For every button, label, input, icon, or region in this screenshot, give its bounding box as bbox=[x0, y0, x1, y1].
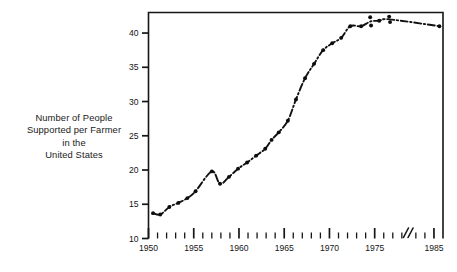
data-point bbox=[339, 36, 343, 40]
break-slash-2 bbox=[408, 228, 413, 238]
x-tick-label-1970: 1970 bbox=[320, 243, 339, 253]
plot-frame bbox=[149, 13, 444, 239]
y-tick-label-35: 35 bbox=[129, 62, 139, 72]
break-slash-1 bbox=[403, 228, 408, 238]
data-point bbox=[176, 201, 180, 205]
data-point bbox=[321, 48, 325, 52]
data-point bbox=[294, 98, 298, 102]
data-point bbox=[236, 167, 240, 171]
chart-figure: Number of People Supported per Farmer in… bbox=[0, 0, 457, 272]
data-point bbox=[303, 76, 307, 80]
data-point bbox=[369, 24, 373, 28]
data-point bbox=[245, 161, 249, 165]
data-point bbox=[368, 15, 372, 19]
y-tick-label-40: 40 bbox=[129, 28, 139, 38]
x-axis-break-icon bbox=[403, 228, 413, 238]
y-tick-label-20: 20 bbox=[129, 165, 139, 175]
data-points bbox=[151, 15, 441, 217]
x-tick-label-1985: 1985 bbox=[424, 243, 443, 253]
data-point bbox=[348, 24, 352, 28]
data-point bbox=[210, 169, 214, 173]
data-point bbox=[185, 196, 189, 200]
data-point bbox=[227, 175, 231, 179]
data-point bbox=[254, 154, 258, 158]
x-axis: 1950195519601965197019751985 bbox=[139, 228, 444, 253]
data-point bbox=[312, 62, 316, 66]
data-point bbox=[437, 24, 441, 28]
x-tick-label-1960: 1960 bbox=[229, 243, 248, 253]
y-tick-label-25: 25 bbox=[129, 131, 139, 141]
data-series-line bbox=[153, 19, 439, 215]
data-point bbox=[158, 213, 162, 217]
y-tick-label-30: 30 bbox=[129, 97, 139, 107]
line-chart-plot: 10152025303540 1950195519601965197019751… bbox=[0, 0, 457, 272]
data-point bbox=[218, 182, 222, 186]
data-point bbox=[387, 15, 391, 19]
data-point bbox=[263, 147, 267, 151]
data-point bbox=[359, 24, 363, 28]
data-point bbox=[277, 130, 281, 134]
data-point bbox=[377, 19, 381, 23]
y-tick-label-15: 15 bbox=[129, 199, 139, 209]
data-point bbox=[270, 138, 274, 142]
y-axis: 10152025303540 bbox=[129, 28, 149, 243]
data-point bbox=[167, 205, 171, 209]
x-tick-label-1975: 1975 bbox=[365, 243, 384, 253]
data-point bbox=[286, 119, 290, 123]
x-tick-label-1965: 1965 bbox=[275, 243, 294, 253]
data-point bbox=[330, 41, 334, 45]
data-point bbox=[388, 20, 392, 24]
y-tick-label-10: 10 bbox=[129, 234, 139, 244]
data-point bbox=[151, 211, 155, 215]
x-tick-label-1950: 1950 bbox=[139, 243, 158, 253]
data-point bbox=[194, 189, 198, 193]
x-tick-label-1955: 1955 bbox=[184, 243, 203, 253]
